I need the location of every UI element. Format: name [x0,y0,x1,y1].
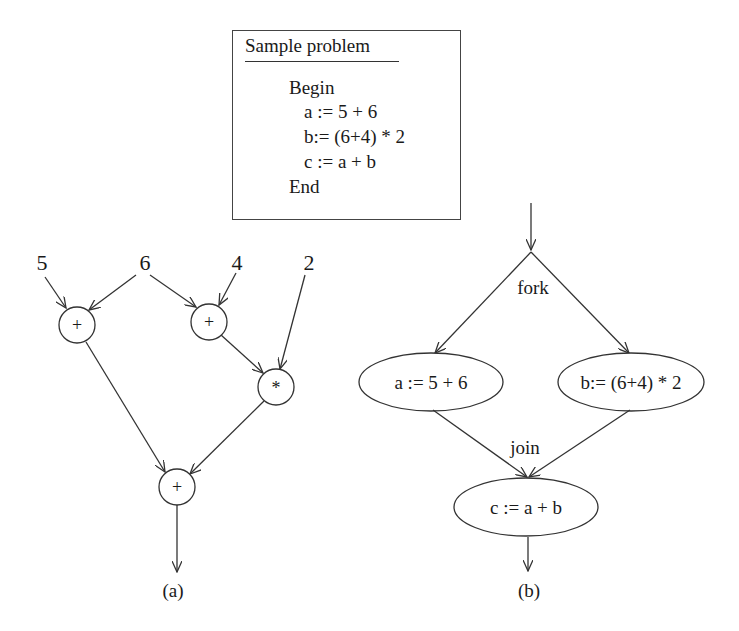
edge-2-to-mul [280,275,305,369]
edge-fork-to-task-b [531,252,629,353]
input-5-label: 5 [37,250,48,275]
edge-add2-to-mul [221,335,263,373]
task-a-label: a := 5 + 6 [394,372,467,393]
edge-4-to-add2 [219,273,236,305]
diagram-canvas: 5 6 4 2 + + * + (a) [0,0,739,631]
join-label: join [509,437,540,458]
caption-b: (b) [518,580,540,602]
node-task-c: c := a + b [454,478,598,536]
edge-5-to-add1 [45,277,66,308]
node-task-b: b:= (6+4) * 2 [558,353,704,411]
edge-add1-to-add3 [86,342,165,472]
task-c-label: c := a + b [490,497,562,518]
edge-task-b-to-join [529,410,630,477]
input-2-label: 2 [304,250,315,275]
edge-fork-to-task-a [435,252,531,353]
add1-operator: + [72,315,82,335]
node-add1: + [59,307,95,343]
input-4-label: 4 [232,250,243,275]
edge-mul-to-add3 [190,401,264,474]
node-add3: + [159,469,195,505]
edge-6-to-add1 [89,275,136,310]
dataflow-graph-a: 5 6 4 2 + + * + (a) [37,250,315,602]
node-mul: * [258,369,294,405]
edge-6-to-add2 [150,275,196,307]
node-task-a: a := 5 + 6 [359,353,503,411]
add2-operator: + [204,312,214,332]
fork-label: fork [517,277,549,298]
node-add2: + [191,304,227,340]
fork-join-graph-b: fork a := 5 + 6 b:= (6+4) * 2 join c := … [359,203,704,602]
caption-a: (a) [162,580,183,602]
task-b-label: b:= (6+4) * 2 [580,372,681,394]
add3-operator: + [172,477,182,497]
input-6-label: 6 [140,250,151,275]
mul-operator: * [272,378,281,398]
